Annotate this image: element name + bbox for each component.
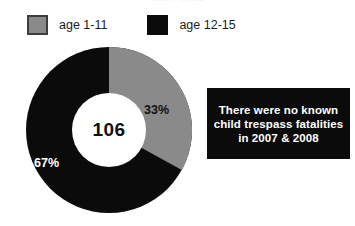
- legend-swatch-black-icon: [147, 15, 168, 35]
- legend-item-age-12-15[interactable]: age 12-15: [147, 15, 235, 35]
- legend-label-age-1-11: age 1-11: [59, 19, 107, 32]
- donut-chart: 106 33% 67%: [26, 47, 192, 213]
- chart-canvas: 2007-2008 age 1-11 age 12-15 106 33% 67%…: [0, 0, 355, 226]
- chart-title: 2007-2008: [0, 0, 355, 1]
- legend-swatch-gray-icon: [27, 15, 48, 35]
- chart-legend: age 1-11 age 12-15: [27, 15, 236, 35]
- donut-hole: [72, 93, 146, 167]
- donut-svg: [26, 47, 192, 213]
- legend-item-age-1-11[interactable]: age 1-11: [27, 15, 107, 35]
- callout-text: There were no known child trespass fatal…: [213, 103, 344, 145]
- callout-box: There were no known child trespass fatal…: [207, 88, 350, 159]
- legend-label-age-12-15: age 12-15: [179, 19, 235, 32]
